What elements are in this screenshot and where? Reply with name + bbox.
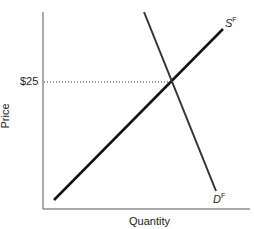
y-axis-label: Price: [0, 103, 11, 128]
supply-label: SF: [225, 16, 237, 29]
x-axis-label: Quantity: [129, 215, 170, 227]
demand-label: DF: [213, 192, 225, 205]
supply-curve: [54, 29, 223, 200]
demand-curve: [144, 12, 216, 191]
price-value-label: $25: [20, 75, 38, 87]
